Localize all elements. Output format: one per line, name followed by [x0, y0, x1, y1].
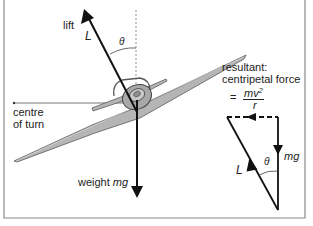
force-vector-triangle — [227, 113, 283, 210]
lift-label: lift — [63, 19, 74, 31]
triangle-theta-label: θ — [264, 156, 269, 168]
weight-word: weight — [78, 176, 110, 188]
theta-arc-triangle — [259, 171, 278, 175]
weight-arrowhead — [131, 186, 143, 198]
banked-turn-diagram — [0, 0, 313, 226]
triangle-mg-label: mg — [284, 150, 299, 162]
theta-arc-top — [110, 48, 136, 54]
centre-of-turn-label-1: centre — [13, 106, 44, 118]
lift-vector — [88, 17, 137, 112]
numerator-exponent: 2 — [259, 87, 263, 94]
formula-numerator: mv2 — [243, 85, 264, 100]
lift-arrowhead — [81, 9, 94, 24]
weight-label: weight mg — [78, 176, 128, 188]
lift-symbol: L — [85, 30, 92, 42]
weight-symbol: mg — [113, 176, 128, 188]
L-arrowhead — [245, 158, 257, 172]
mg-arrowhead — [273, 145, 283, 155]
centre-of-turn-dot — [13, 102, 15, 104]
formula-denominator: r — [253, 99, 257, 111]
theta-label-top: θ — [119, 36, 124, 48]
numerator-text: mv — [244, 87, 259, 99]
airplane — [14, 55, 246, 162]
centre-of-turn-label-2: of turn — [13, 118, 44, 130]
centripetal-arrowhead — [246, 113, 256, 121]
triangle-L-label: L — [236, 164, 243, 176]
equals-sign: = — [230, 91, 236, 103]
resultant-label-2: centripetal force — [222, 73, 300, 85]
resultant-label-1: resultant: — [222, 61, 267, 73]
